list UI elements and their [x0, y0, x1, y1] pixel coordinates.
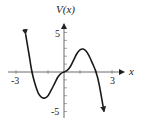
y-min-tick-label: -5 — [51, 107, 59, 117]
y-max-tick-label: 5 — [55, 29, 60, 39]
x-min-tick-label: -3 — [11, 76, 19, 86]
x-axis-title: x — [129, 66, 134, 77]
v-of-x-curve — [26, 34, 104, 111]
y-axis-title: V(x) — [56, 4, 75, 15]
polynomial-graph — [0, 0, 144, 132]
x-max-tick-label: 3 — [110, 76, 115, 86]
